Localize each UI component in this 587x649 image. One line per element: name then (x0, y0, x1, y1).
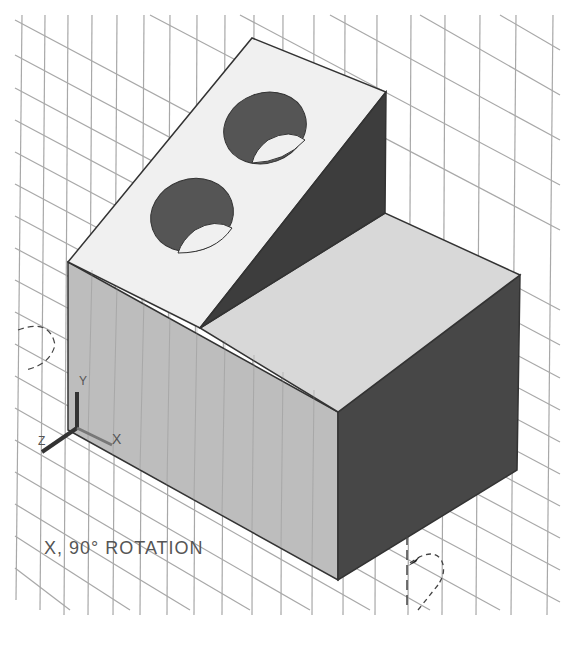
ucs-x-axis-label: X (112, 431, 122, 447)
ucs-y-axis-label: Y (79, 374, 87, 388)
rotation-indicator-icon (407, 535, 444, 610)
ucs-z-axis-label: Z (38, 434, 45, 448)
rotation-annotation: X, 90° ROTATION (44, 538, 204, 559)
